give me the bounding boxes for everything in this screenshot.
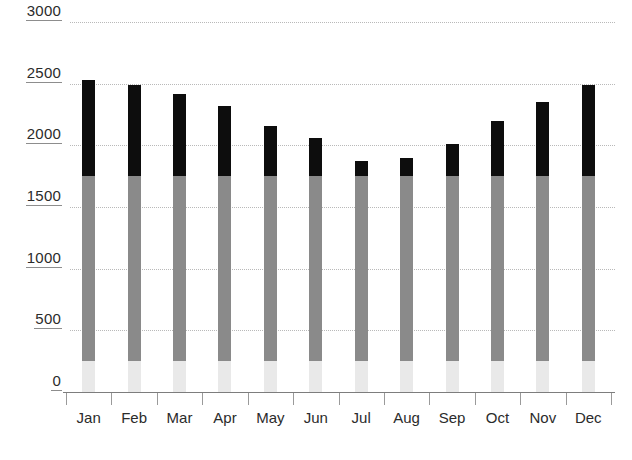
bar-segment-middle-segment-oct — [491, 176, 504, 361]
gridline-1500 — [70, 207, 615, 208]
y-tick-label-1000: 1000 — [0, 249, 62, 270]
plot-area — [70, 22, 615, 392]
y-tick-label-500: 500 — [0, 310, 62, 331]
bar-segment-top-segment-dec — [582, 85, 595, 176]
bar-segment-middle-segment-jan — [82, 176, 95, 361]
bar-may — [264, 22, 277, 392]
bar-segment-bottom-segment-sep — [446, 361, 459, 392]
y-tick-text: 3000 — [26, 2, 62, 21]
x-axis-label-mar: Mar — [157, 409, 203, 426]
x-axis-label-oct: Oct — [474, 409, 520, 426]
x-axis-label-apr: Apr — [202, 409, 248, 426]
gridline-500 — [70, 330, 615, 331]
bar-segment-middle-segment-apr — [218, 176, 231, 361]
x-tick-8 — [429, 393, 430, 405]
bar-nov — [536, 22, 549, 392]
bar-segment-top-segment-jun — [309, 138, 322, 176]
bar-segment-top-segment-apr — [218, 106, 231, 176]
x-tick-5 — [293, 393, 294, 405]
bar-segment-top-segment-jan — [82, 80, 95, 176]
bar-segment-bottom-segment-dec — [582, 361, 595, 392]
y-tick-label-2000: 2000 — [0, 125, 62, 146]
bar-segment-bottom-segment-jul — [355, 361, 368, 392]
x-axis-label-nov: Nov — [520, 409, 566, 426]
y-tick-text: 0 — [51, 372, 62, 391]
x-tick-2 — [157, 393, 158, 405]
bar-segment-bottom-segment-may — [264, 361, 277, 392]
bar-segment-middle-segment-feb — [128, 176, 141, 361]
bar-segment-top-segment-jul — [355, 161, 368, 176]
bar-aug — [400, 22, 413, 392]
bar-jul — [355, 22, 368, 392]
x-axis-label-jul: Jul — [338, 409, 384, 426]
bar-segment-bottom-segment-aug — [400, 361, 413, 392]
bar-chart: 300025002000150010005000 JanFebMarAprMay… — [0, 0, 632, 460]
bar-segment-bottom-segment-nov — [536, 361, 549, 392]
bar-jan — [82, 22, 95, 392]
x-axis-label-jun: Jun — [293, 409, 339, 426]
bar-segment-bottom-segment-oct — [491, 361, 504, 392]
bar-jun — [309, 22, 322, 392]
bar-segment-middle-segment-nov — [536, 176, 549, 361]
bar-segment-bottom-segment-jun — [309, 361, 322, 392]
bar-segment-top-segment-mar — [173, 94, 186, 177]
bar-dec — [582, 22, 595, 392]
y-tick-text: 2500 — [26, 64, 62, 83]
bar-segment-top-segment-feb — [128, 85, 141, 176]
x-tick-3 — [202, 393, 203, 405]
bar-segment-middle-segment-sep — [446, 176, 459, 361]
x-tick-10 — [520, 393, 521, 405]
bar-sep — [446, 22, 459, 392]
y-tick-label-1500: 1500 — [0, 187, 62, 208]
gridline-3000 — [70, 22, 615, 23]
bar-segment-middle-segment-aug — [400, 176, 413, 361]
x-tick-7 — [384, 393, 385, 405]
x-axis-label-sep: Sep — [429, 409, 475, 426]
bar-mar — [173, 22, 186, 392]
bar-segment-top-segment-nov — [536, 102, 549, 176]
y-tick-text: 500 — [34, 310, 62, 329]
x-tick-1 — [111, 393, 112, 405]
x-tick-9 — [475, 393, 476, 405]
x-axis-label-jan: Jan — [66, 409, 112, 426]
x-axis-label-feb: Feb — [111, 409, 157, 426]
x-axis-label-aug: Aug — [384, 409, 430, 426]
bar-segment-top-segment-sep — [446, 144, 459, 176]
bar-segment-middle-segment-jul — [355, 176, 368, 361]
bar-segment-middle-segment-mar — [173, 176, 186, 361]
y-tick-text: 1000 — [26, 249, 62, 268]
x-tick-6 — [339, 393, 340, 405]
x-axis-label-dec: Dec — [565, 409, 611, 426]
bar-segment-middle-segment-jun — [309, 176, 322, 361]
bar-segment-bottom-segment-apr — [218, 361, 231, 392]
bar-segment-bottom-segment-mar — [173, 361, 186, 392]
x-axis-label-may: May — [247, 409, 293, 426]
gridline-2000 — [70, 145, 615, 146]
y-tick-label-2500: 2500 — [0, 64, 62, 85]
y-tick-label-3000: 3000 — [0, 2, 62, 23]
x-tick-0 — [66, 393, 67, 405]
x-tick-4 — [248, 393, 249, 405]
y-tick-label-0: 0 — [0, 372, 62, 393]
bar-segment-top-segment-oct — [491, 121, 504, 177]
y-tick-text: 2000 — [26, 125, 62, 144]
bar-segment-middle-segment-may — [264, 176, 277, 361]
bar-segment-top-segment-aug — [400, 158, 413, 177]
x-tick-11 — [566, 393, 567, 405]
x-tick-12 — [611, 393, 612, 405]
bar-feb — [128, 22, 141, 392]
bar-apr — [218, 22, 231, 392]
gridline-1000 — [70, 269, 615, 270]
bar-segment-top-segment-may — [264, 126, 277, 177]
bar-segment-bottom-segment-feb — [128, 361, 141, 392]
bar-oct — [491, 22, 504, 392]
gridline-2500 — [70, 84, 615, 85]
y-tick-text: 1500 — [26, 187, 62, 206]
bar-segment-bottom-segment-jan — [82, 361, 95, 392]
bar-segment-middle-segment-dec — [582, 176, 595, 361]
